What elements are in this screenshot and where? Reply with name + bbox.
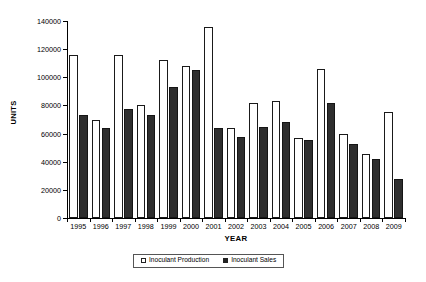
legend-item-label: Inoculant Production bbox=[149, 257, 209, 264]
x-tick-mark bbox=[90, 218, 91, 222]
bar-production-2003 bbox=[249, 103, 258, 218]
y-tick-label: 140000 bbox=[37, 17, 61, 26]
bar-production-2005 bbox=[294, 138, 303, 218]
x-tick-label-2007: 2007 bbox=[341, 222, 357, 231]
legend-item[interactable]: Inoculant Sales bbox=[223, 257, 276, 264]
x-tick-label-2006: 2006 bbox=[318, 222, 334, 231]
bar-production-2001 bbox=[204, 27, 213, 218]
x-tick-mark bbox=[270, 218, 271, 222]
bar-production-2006 bbox=[317, 69, 326, 218]
chart-legend: Inoculant ProductionInoculant Sales bbox=[133, 254, 284, 268]
bar-sales-2003 bbox=[259, 127, 268, 218]
x-tick-mark bbox=[360, 218, 361, 222]
x-tick-label-2009: 2009 bbox=[386, 222, 402, 231]
x-tick-mark bbox=[405, 218, 406, 222]
bar-sales-1999 bbox=[169, 87, 178, 218]
x-tick-mark bbox=[112, 218, 113, 222]
bar-sales-1996 bbox=[102, 128, 111, 218]
bar-sales-2004 bbox=[282, 122, 291, 218]
bar-production-1998 bbox=[137, 105, 146, 218]
x-tick-mark bbox=[67, 218, 68, 222]
y-tick-mark bbox=[63, 162, 67, 163]
y-tick-mark bbox=[63, 190, 67, 191]
x-tick-label-2008: 2008 bbox=[363, 222, 379, 231]
x-tick-label-2001: 2001 bbox=[205, 222, 221, 231]
x-tick-mark bbox=[180, 218, 181, 222]
x-tick-mark bbox=[382, 218, 383, 222]
y-tick-mark bbox=[63, 21, 67, 22]
x-tick-label-1995: 1995 bbox=[70, 222, 86, 231]
bar-production-1997 bbox=[114, 55, 123, 218]
bar-sales-1995 bbox=[79, 115, 88, 218]
bar-sales-1998 bbox=[147, 115, 156, 218]
bar-sales-2009 bbox=[394, 179, 403, 218]
open-square-icon bbox=[141, 258, 146, 263]
bar-sales-1997 bbox=[124, 109, 133, 218]
legend-item[interactable]: Inoculant Production bbox=[141, 257, 209, 264]
y-axis-title: UNITS bbox=[9, 83, 18, 143]
bar-production-2009 bbox=[384, 112, 393, 218]
bar-production-2000 bbox=[182, 66, 191, 218]
y-tick-label: 60000 bbox=[41, 129, 61, 138]
x-axis-line bbox=[67, 218, 405, 219]
y-tick-mark bbox=[63, 77, 67, 78]
x-tick-mark bbox=[202, 218, 203, 222]
x-tick-mark bbox=[315, 218, 316, 222]
y-tick-mark bbox=[63, 49, 67, 50]
bar-sales-2002 bbox=[237, 137, 246, 218]
bar-production-1996 bbox=[92, 120, 101, 219]
bar-sales-2007 bbox=[349, 144, 358, 218]
y-tick-label: 120000 bbox=[37, 45, 61, 54]
bar-sales-2008 bbox=[372, 159, 381, 218]
plot-area: 020000400006000080000100000120000140000 bbox=[67, 21, 405, 218]
x-tick-label-1999: 1999 bbox=[160, 222, 176, 231]
y-tick-label: 80000 bbox=[41, 101, 61, 110]
x-tick-mark bbox=[337, 218, 338, 222]
x-tick-label-1998: 1998 bbox=[138, 222, 154, 231]
x-tick-mark bbox=[225, 218, 226, 222]
bar-sales-2000 bbox=[192, 70, 201, 218]
x-tick-mark bbox=[247, 218, 248, 222]
y-tick-mark bbox=[63, 134, 67, 135]
bar-sales-2001 bbox=[214, 128, 223, 218]
x-tick-label-1996: 1996 bbox=[93, 222, 109, 231]
y-tick-label: 20000 bbox=[41, 185, 61, 194]
legend-item-label: Inoculant Sales bbox=[231, 257, 276, 264]
bar-chart: UNITS 0200004000060000800001000001200001… bbox=[0, 0, 426, 282]
y-tick-label: 100000 bbox=[37, 73, 61, 82]
x-tick-label-2004: 2004 bbox=[273, 222, 289, 231]
y-tick-label: 40000 bbox=[41, 157, 61, 166]
bar-production-2002 bbox=[227, 128, 236, 218]
bar-sales-2006 bbox=[327, 103, 336, 218]
x-tick-label-1997: 1997 bbox=[115, 222, 131, 231]
bar-production-1999 bbox=[159, 60, 168, 218]
bar-production-2007 bbox=[339, 134, 348, 218]
bar-production-2008 bbox=[362, 154, 371, 218]
x-tick-label-2000: 2000 bbox=[183, 222, 199, 231]
bar-sales-2005 bbox=[304, 140, 313, 218]
x-tick-mark bbox=[157, 218, 158, 222]
y-tick-mark bbox=[63, 105, 67, 106]
x-tick-label-2002: 2002 bbox=[228, 222, 244, 231]
bar-production-1995 bbox=[69, 55, 78, 218]
filled-square-icon bbox=[223, 258, 228, 263]
bar-production-2004 bbox=[272, 101, 281, 218]
x-tick-label-2003: 2003 bbox=[251, 222, 267, 231]
x-tick-mark bbox=[135, 218, 136, 222]
x-tick-label-2005: 2005 bbox=[296, 222, 312, 231]
y-tick-label: 0 bbox=[57, 214, 61, 223]
x-axis-title: YEAR bbox=[67, 234, 405, 243]
x-tick-mark bbox=[292, 218, 293, 222]
